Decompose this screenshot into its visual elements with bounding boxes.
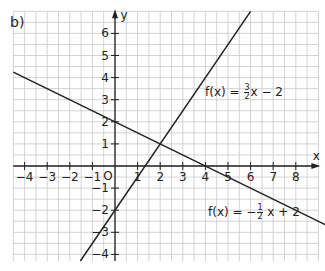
function-label-1: f(x) = 32x − 2 — [205, 84, 283, 101]
x-tick-label: 2 — [156, 170, 164, 184]
x-tick-label: −4 — [16, 170, 34, 184]
f1-suffix: x − 2 — [250, 85, 282, 99]
y-axis-arrow-icon — [112, 9, 118, 18]
y-tick-label: −2 — [91, 203, 109, 217]
f2-den: 2 — [257, 213, 262, 221]
y-tick-label: 4 — [101, 71, 109, 85]
x-tick-label: −3 — [38, 170, 56, 184]
f1-fraction: 32 — [244, 84, 249, 101]
y-tick-label: 5 — [101, 49, 109, 63]
x-tick-label: 8 — [292, 170, 300, 184]
x-tick-label: 3 — [179, 170, 187, 184]
f2-prefix: f(x) = − — [208, 205, 256, 219]
part-label: b) — [10, 14, 24, 30]
f1-den: 2 — [244, 93, 249, 101]
y-tick-label: −1 — [91, 181, 109, 195]
y-tick-label: 1 — [101, 137, 109, 151]
x-tick-label: 7 — [269, 170, 277, 184]
x-tick-label: 4 — [202, 170, 210, 184]
x-tick-label: 6 — [247, 170, 255, 184]
function-label-2: f(x) = −12 x + 2 — [208, 204, 300, 221]
y-axis-label: y — [120, 8, 127, 22]
f2-fraction: 12 — [257, 204, 262, 221]
x-axis-arrow-icon — [311, 163, 320, 169]
coordinate-plot: −4−3−2−112345678654321−1−2−3−4Oxy — [0, 0, 325, 271]
x-tick-label: −2 — [61, 170, 79, 184]
y-tick-label: 6 — [101, 26, 109, 40]
x-axis-label: x — [313, 149, 320, 163]
origin-label: O — [103, 169, 112, 183]
y-tick-label: −4 — [91, 247, 109, 261]
f1-prefix: f(x) = — [205, 85, 243, 99]
f2-suffix: x + 2 — [264, 205, 300, 219]
y-tick-label: 3 — [101, 93, 109, 107]
